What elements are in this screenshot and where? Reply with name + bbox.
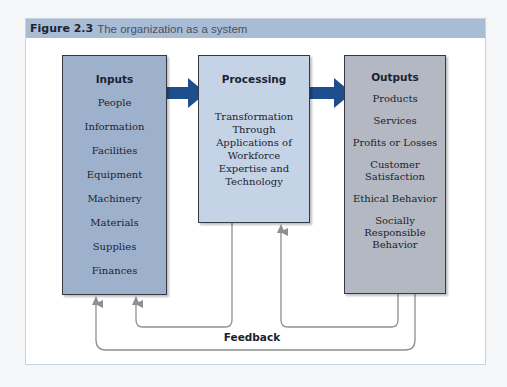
list-item: Customer Satisfaction xyxy=(345,159,445,183)
list-item: Socially Responsible Behavior xyxy=(345,215,445,251)
inputs-list: People Information Facilities Equipment … xyxy=(63,97,166,278)
processing-description: Transformation Through Applications of W… xyxy=(205,110,303,188)
list-item: Equipment xyxy=(63,169,166,182)
feedback-label: Feedback xyxy=(222,331,282,343)
list-item: Supplies xyxy=(63,241,166,254)
list-item: Services xyxy=(345,115,445,127)
processing-box: Processing Transformation Through Applic… xyxy=(198,55,310,223)
outputs-list: Products Services Profits or Losses Cust… xyxy=(345,93,445,251)
processing-title: Processing xyxy=(199,73,309,85)
list-item: Ethical Behavior xyxy=(345,193,445,205)
outputs-title: Outputs xyxy=(345,71,445,83)
list-item: Products xyxy=(345,93,445,105)
outputs-box: Outputs Products Services Profits or Los… xyxy=(344,55,446,294)
list-item: Finances xyxy=(63,265,166,278)
list-item: Materials xyxy=(63,217,166,230)
list-item: Machinery xyxy=(63,193,166,206)
list-item: People xyxy=(63,97,166,110)
list-item: Information xyxy=(63,121,166,134)
inputs-box: Inputs People Information Facilities Equ… xyxy=(62,55,167,295)
list-item: Facilities xyxy=(63,145,166,158)
list-item: Profits or Losses xyxy=(345,137,445,149)
inputs-title: Inputs xyxy=(63,73,166,85)
